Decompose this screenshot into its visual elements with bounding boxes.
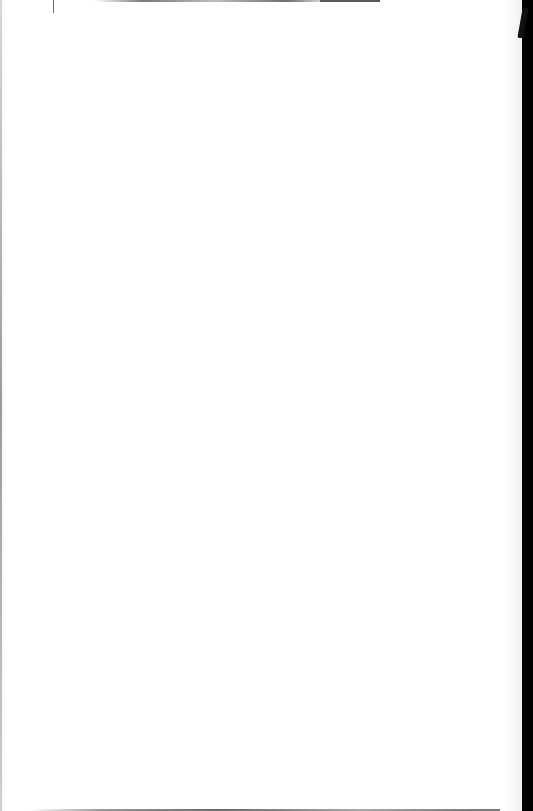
corner-mark	[53, 0, 54, 13]
top-page-edge	[95, 0, 335, 2]
top-page-edge-shadow	[320, 0, 380, 2]
right-scan-border	[522, 0, 533, 811]
left-page-edge	[0, 0, 2, 811]
scanned-document	[0, 0, 533, 811]
blank-page	[0, 0, 525, 811]
